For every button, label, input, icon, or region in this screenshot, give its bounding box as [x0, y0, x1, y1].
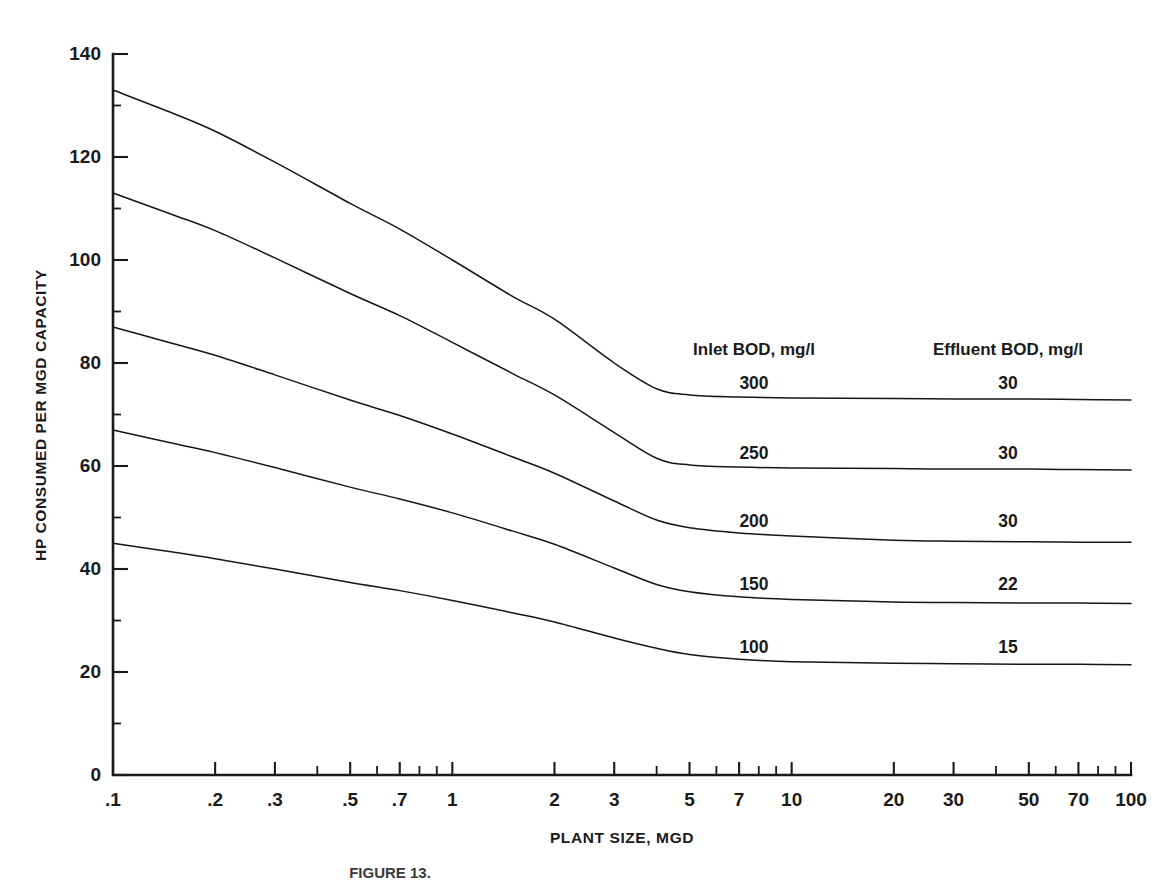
x-tick-label: .5 [342, 789, 358, 810]
series-effluent-label-150: 22 [998, 574, 1018, 594]
y-tick-label: 80 [80, 352, 101, 373]
series-inlet-label-100: 100 [739, 637, 768, 657]
chart-annotations: Inlet BOD, mg/lEffluent BOD, mg/l3003025… [693, 340, 1083, 657]
axis-lines [113, 54, 1131, 775]
x-tick-label: .7 [392, 789, 408, 810]
figure-root: 020406080100120140.1.2.3.5.7123571020305… [0, 0, 1173, 881]
series-inlet-label-150: 150 [739, 574, 768, 594]
legend-header-effluent: Effluent BOD, mg/l [933, 340, 1083, 359]
x-tick-label: 30 [943, 789, 964, 810]
y-axis-title: HP CONSUMED PER MGD CAPACITY [32, 269, 49, 561]
series-curve-200 [113, 327, 1131, 542]
figure-caption: FIGURE 13. [349, 864, 431, 881]
x-tick-label: 20 [883, 789, 904, 810]
line-chart: 020406080100120140.1.2.3.5.7123571020305… [0, 0, 1173, 881]
series-effluent-label-300: 30 [998, 373, 1018, 393]
series-curve-100 [113, 543, 1131, 665]
x-tick-label: 3 [609, 789, 620, 810]
y-tick-label: 100 [69, 249, 101, 270]
x-tick-label: 10 [781, 789, 802, 810]
series-effluent-label-200: 30 [998, 511, 1018, 531]
x-tick-label: .2 [207, 789, 223, 810]
chart-curves [113, 90, 1131, 665]
x-tick-label: 7 [734, 789, 745, 810]
x-tick-label: 70 [1068, 789, 1089, 810]
y-tick-label: 40 [80, 558, 101, 579]
series-inlet-label-200: 200 [739, 511, 768, 531]
x-tick-label: 100 [1115, 789, 1147, 810]
series-inlet-label-250: 250 [739, 443, 768, 463]
y-tick-label: 60 [80, 455, 101, 476]
x-tick-label: 1 [447, 789, 458, 810]
series-effluent-label-100: 15 [998, 637, 1018, 657]
chart-ticks [113, 54, 1131, 775]
x-tick-label: .3 [267, 789, 283, 810]
x-tick-label: 5 [684, 789, 695, 810]
chart-axes [113, 54, 1131, 775]
series-effluent-label-250: 30 [998, 443, 1018, 463]
y-tick-label: 140 [69, 43, 101, 64]
legend-header-inlet: Inlet BOD, mg/l [693, 340, 815, 359]
x-axis-title: PLANT SIZE, MGD [550, 829, 694, 846]
series-curve-150 [113, 430, 1131, 604]
x-tick-label: 2 [549, 789, 560, 810]
x-tick-label: 50 [1018, 789, 1039, 810]
y-tick-label: 20 [80, 661, 101, 682]
y-tick-label: 0 [90, 764, 101, 785]
series-inlet-label-300: 300 [739, 373, 768, 393]
x-tick-label: .1 [105, 789, 121, 810]
series-curve-250 [113, 193, 1131, 470]
y-tick-label: 120 [69, 146, 101, 167]
chart-tick-labels: 020406080100120140.1.2.3.5.7123571020305… [69, 43, 1147, 810]
